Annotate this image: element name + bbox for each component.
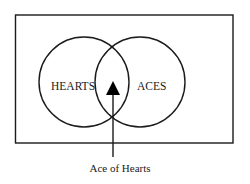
intersection-caption: Ace of Hearts — [89, 162, 150, 174]
triangle-marker-icon — [106, 81, 120, 95]
hearts-label: HEARTS — [51, 80, 95, 92]
venn-diagram: HEARTS ACES Ace of Hearts — [0, 0, 250, 184]
aces-label: ACES — [137, 80, 166, 92]
